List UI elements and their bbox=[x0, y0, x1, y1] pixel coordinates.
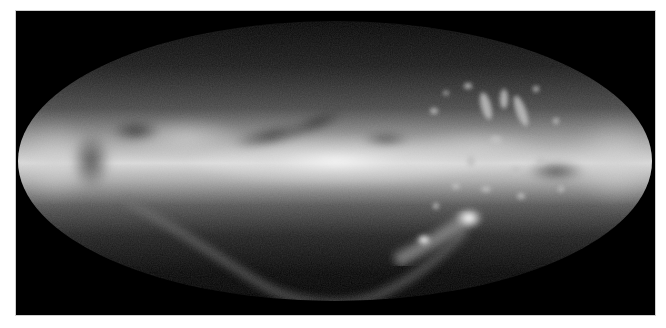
sky-map-panel bbox=[16, 11, 655, 315]
all-sky-map-image bbox=[16, 11, 655, 315]
